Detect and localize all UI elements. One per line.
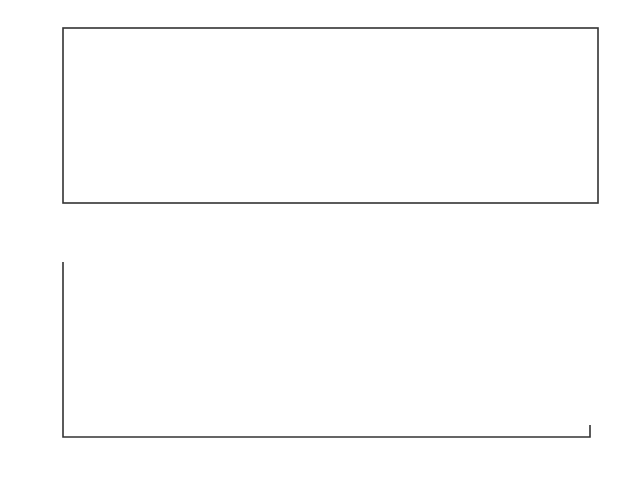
figure — [0, 0, 634, 484]
bottom-plot-axes — [63, 262, 590, 437]
bottom-scatter-plot — [63, 262, 590, 437]
top-plot-frame — [63, 28, 598, 203]
top-line-plot — [63, 28, 598, 203]
